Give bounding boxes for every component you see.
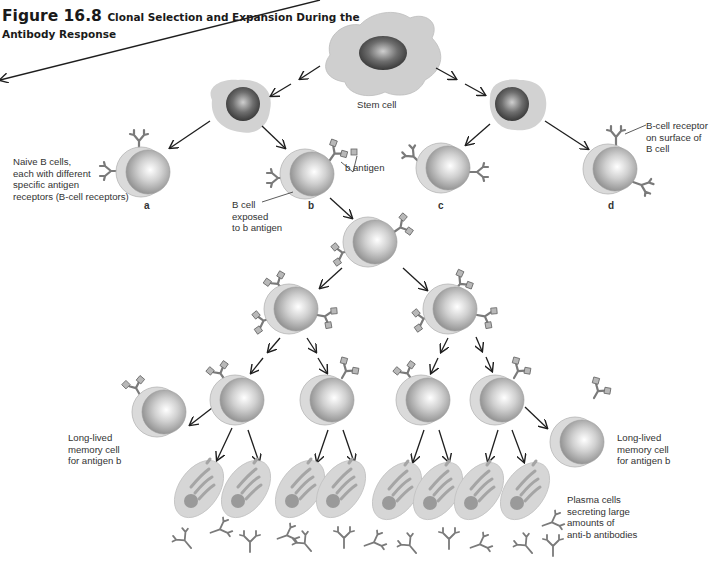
stem-cell-label: Stem cell (357, 99, 396, 111)
memory-cell-left-label: Long-lived memory cell for antigen b (68, 432, 121, 467)
naive-b-cell-c (399, 142, 488, 193)
cell-letter-b: b (308, 200, 314, 211)
cell-letter-a: a (144, 200, 150, 211)
cell-letter-c: c (438, 200, 444, 211)
level4-cell-2 (300, 356, 362, 425)
stem-cell (326, 12, 441, 95)
naive-b-cell-b (262, 138, 357, 202)
bcr-leader (625, 125, 646, 134)
memory-cell-right-label: Long-lived memory cell for antigen b (617, 432, 670, 467)
b-antigen-label: b antigen (345, 162, 384, 174)
progenitor-cell-left (211, 80, 271, 133)
level4-cell-3 (392, 357, 450, 425)
bcr-surface-label: B-cell receptor on surface of B cell (646, 120, 708, 155)
memory-cell-left (121, 372, 186, 437)
b-cell-exposed-label: B cell exposed to b antigen (232, 199, 282, 234)
memory-cell-right (550, 376, 614, 467)
clone-cell-left (248, 267, 338, 334)
clonal-selection-diagram (0, 0, 716, 569)
naive-b-cell-d (583, 125, 655, 197)
level4-cell-4 (470, 356, 534, 425)
activated-b-cell (327, 212, 416, 267)
progenitor-cell-right (490, 80, 547, 131)
plasma-cells-label: Plasma cells secreting large amounts of … (567, 494, 637, 540)
naive-b-cells-label: Naive B cells, each with different speci… (13, 156, 129, 202)
cell-letter-d: d (608, 200, 614, 211)
clone-cell-right (408, 268, 498, 334)
